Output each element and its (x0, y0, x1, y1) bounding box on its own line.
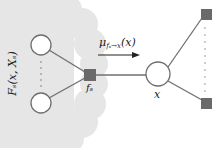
edge-x-to-right-top (168, 18, 202, 67)
factor-node-right-top (201, 9, 212, 20)
right-ellipsis-dots (204, 27, 205, 91)
edge-x-to-right-bottom (168, 81, 202, 100)
variable-node-bottom (31, 93, 51, 113)
factor-node-fs (84, 69, 96, 81)
variable-node-x (146, 62, 170, 86)
variable-node-top (31, 35, 51, 55)
subtree-label: Fₛ(x, Xₛ) (6, 40, 19, 108)
message-subscript: fₛ→x (106, 42, 121, 50)
factor-node-right-bottom (201, 98, 212, 109)
message-argument: (x) (121, 36, 136, 49)
variable-label-x: x (154, 88, 160, 101)
factor-label-fs: fₛ (86, 82, 93, 93)
arrow-head-icon (132, 52, 140, 58)
message-label: μfₛ→x(x) (99, 36, 136, 50)
factor-graph-diagram (0, 0, 214, 148)
